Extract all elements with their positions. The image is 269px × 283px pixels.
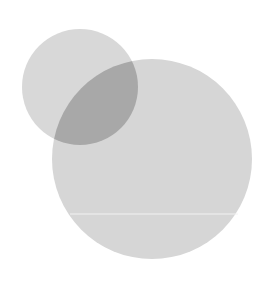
venn-diagram: [0, 0, 269, 283]
